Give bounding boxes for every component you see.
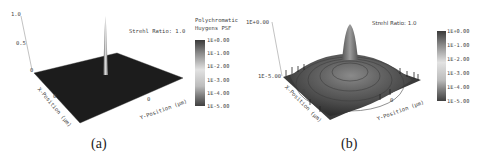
z-tick-mid: 0.5 [16, 40, 26, 46]
caption-a: (a) [91, 136, 107, 152]
y-zero-tick: 0 [147, 96, 150, 102]
psf-peak [104, 16, 109, 75]
z-tick-top: 1E+0.00 [246, 19, 269, 25]
colorbar-tick: 1E+0.00 [447, 28, 469, 34]
caption-b: (b) [341, 136, 357, 152]
psf-peak [342, 24, 358, 60]
surface-plot-a [0, 0, 240, 159]
surface-plot-b [240, 0, 479, 159]
x-zero-tick: 0 [53, 93, 56, 99]
strehl-ratio-label: Strehl Ratio: 1.0 [129, 28, 185, 34]
colorbar-a [195, 40, 205, 106]
legend-title-line1: Polychromatic [195, 17, 238, 23]
colorbar-b [437, 31, 446, 101]
colorbar-tick: 1E-4.00 [207, 90, 229, 96]
z-tick-bottom: 1E-5.00 [258, 73, 281, 79]
psf-linear-panel: 1.0 0.5 0 Strehl Ratio: 1.0 Polychromati… [0, 0, 240, 159]
legend-title-line2: Huygens PSF [195, 25, 231, 31]
z-axis-line [272, 22, 282, 76]
colorbar-tick: 1E-2.00 [207, 63, 229, 69]
strehl-ratio-label: Strehl Ratio: 1.0 [372, 20, 416, 26]
colorbar-tick: 1E+0.00 [207, 37, 229, 43]
colorbar-tick: 1E-3.00 [447, 70, 469, 76]
colorbar-tick: 1E-1.00 [207, 50, 229, 56]
z-tick-bottom: 0 [30, 67, 33, 73]
psf-log-panel: 1E+0.00 1E-5.00 Strehl Ratio: 1.0 1E+0.0… [240, 0, 479, 159]
colorbar-tick: 1E-3.00 [207, 77, 229, 83]
z-tick-top: 1.0 [11, 11, 21, 17]
x-zero-tick: 0 [302, 88, 305, 94]
colorbar-tick: 1E-4.00 [447, 84, 469, 90]
colorbar-tick: 1E-5.00 [207, 103, 229, 109]
colorbar-tick: 1E-1.00 [447, 42, 469, 48]
colorbar-tick: 1E-5.00 [447, 98, 469, 104]
y-zero-tick: 0 [390, 97, 393, 103]
colorbar-tick: 1E-2.00 [447, 56, 469, 62]
